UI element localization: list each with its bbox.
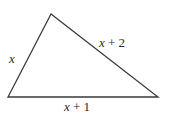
bottom-side-rest: + 1 — [70, 99, 90, 114]
triangle-shape — [8, 14, 158, 97]
right-side-rest: + 2 — [105, 35, 125, 50]
right-side-label: x + 2 — [99, 36, 125, 49]
bottom-side-label: x + 1 — [64, 100, 90, 113]
triangle-diagram — [0, 0, 169, 114]
left-side-variable: x — [9, 51, 15, 66]
left-side-label: x — [9, 52, 15, 65]
